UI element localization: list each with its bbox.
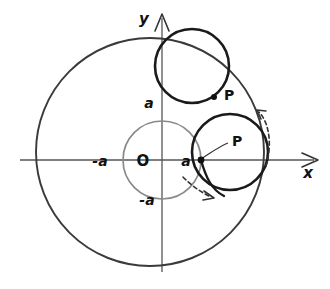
y-axis-label: y: [139, 10, 150, 28]
y-positive-tick-label: a: [144, 95, 153, 111]
origin-label: O: [137, 152, 150, 170]
p-leader-line: [201, 143, 228, 159]
x-negative-tick-label: -a: [92, 153, 107, 169]
y-negative-tick-label: -a: [139, 192, 154, 208]
rolling-circle-upper: [155, 29, 229, 103]
point-p-upper-dot: [211, 94, 217, 100]
x-axis-label: x: [302, 164, 314, 182]
x-positive-tick-label: a: [181, 153, 190, 169]
point-label-p-right: P: [232, 133, 242, 149]
axes-group: [20, 14, 318, 272]
epicycloid-diagram-svg: y x O -a a a -a P P: [0, 0, 330, 289]
point-p-cusp-dot: [198, 157, 205, 164]
diagram-canvas: y x O -a a a -a P P: [0, 0, 330, 289]
outer-locus-circle: [36, 38, 264, 266]
rolling-circle-right: [192, 114, 268, 190]
point-label-p-upper: P: [224, 87, 234, 103]
